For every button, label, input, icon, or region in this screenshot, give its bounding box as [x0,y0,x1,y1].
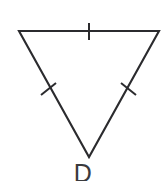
vertex-label-d: D [0,161,166,181]
geometry-figure: D [0,0,166,181]
triangle-interior [19,31,159,157]
triangle-diagram-svg [0,0,166,181]
